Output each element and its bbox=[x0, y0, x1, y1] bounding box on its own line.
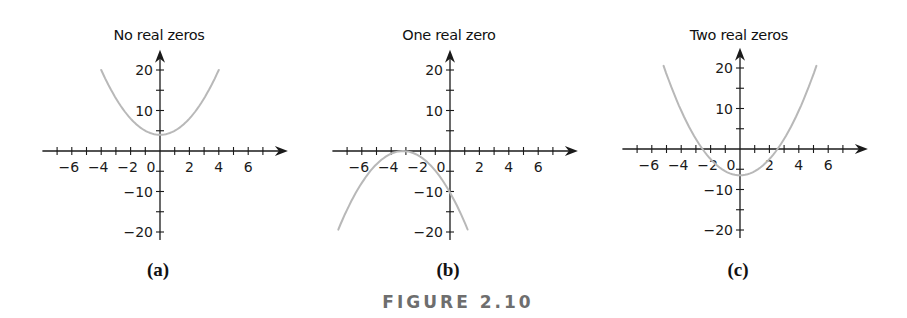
panel-caption: (b) bbox=[436, 259, 459, 281]
y-tick-label: 20 bbox=[715, 60, 733, 76]
x-tick-label: 0 bbox=[727, 157, 736, 173]
figure-label: FIGURE 2.10 bbox=[382, 292, 533, 312]
x-tick-label: 4 bbox=[504, 159, 513, 175]
axes: −6−4−202462010−10−20 bbox=[622, 48, 867, 238]
x-tick-label: −4 bbox=[668, 157, 689, 173]
x-tick-label: −6 bbox=[348, 159, 369, 175]
y-tick-label: −10 bbox=[703, 182, 733, 198]
panel-a: No real zeros −6−4−202462010−10−20 (a) bbox=[42, 27, 287, 281]
panel-title: One real zero bbox=[402, 27, 496, 43]
x-tick-label: −6 bbox=[58, 159, 79, 175]
x-tick-label: −2 bbox=[117, 159, 138, 175]
x-tick-label: 6 bbox=[534, 159, 543, 175]
axes: −6−4−202462010−10−20 bbox=[42, 50, 287, 240]
x-tick-label: 2 bbox=[185, 159, 194, 175]
x-tick-label: −2 bbox=[407, 159, 428, 175]
panel-caption: (a) bbox=[147, 259, 169, 281]
y-tick-label: 10 bbox=[425, 103, 443, 119]
x-tick-label: 4 bbox=[214, 159, 223, 175]
y-tick-label: −20 bbox=[123, 224, 153, 240]
y-tick-label: 20 bbox=[425, 62, 443, 78]
x-tick-label: 0 bbox=[147, 159, 156, 175]
x-tick-label: −4 bbox=[88, 159, 109, 175]
x-tick-label: 4 bbox=[794, 157, 803, 173]
y-tick-label: −20 bbox=[703, 222, 733, 238]
panel-title: No real zeros bbox=[113, 27, 204, 43]
y-tick-label: −20 bbox=[413, 224, 443, 240]
x-tick-label: 6 bbox=[244, 159, 253, 175]
y-tick-label: −10 bbox=[413, 184, 443, 200]
panel-title: Two real zeros bbox=[689, 27, 788, 43]
y-tick-label: 10 bbox=[135, 103, 153, 119]
panel-c: Two real zeros −6−4−202462010−10−20 (c) bbox=[622, 27, 867, 281]
axes: −6−4−202462010−10−20 bbox=[332, 50, 577, 240]
x-tick-label: −2 bbox=[697, 157, 718, 173]
x-tick-label: −6 bbox=[638, 157, 659, 173]
panel-caption: (c) bbox=[727, 259, 748, 281]
panel-b: One real zero −6−4−202462010−10−20 (b) bbox=[332, 27, 577, 281]
x-tick-label: 2 bbox=[475, 159, 484, 175]
figure-2-10: No real zeros −6−4−202462010−10−20 (a) O… bbox=[0, 0, 907, 318]
y-tick-label: 20 bbox=[135, 62, 153, 78]
y-tick-label: 10 bbox=[715, 101, 733, 117]
x-tick-label: 6 bbox=[824, 157, 833, 173]
y-tick-label: −10 bbox=[123, 184, 153, 200]
